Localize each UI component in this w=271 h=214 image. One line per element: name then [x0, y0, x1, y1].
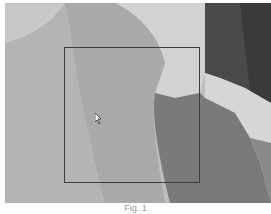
arrow-cursor-icon — [95, 110, 103, 121]
figure-caption: Fig. 1 — [0, 203, 271, 214]
selection-rectangle[interactable] — [64, 47, 200, 183]
